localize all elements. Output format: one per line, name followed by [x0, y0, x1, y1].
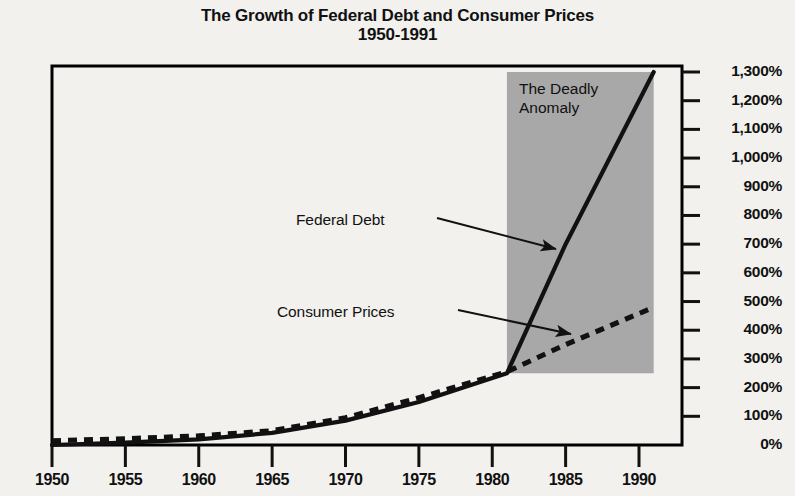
- x-tick-label: 1990: [609, 471, 669, 489]
- x-tick-label: 1950: [22, 471, 82, 489]
- shaded-region-label-line-1: The Deadly: [519, 80, 598, 97]
- x-tick-label: 1955: [95, 471, 155, 489]
- x-tick-label: 1975: [389, 471, 449, 489]
- shaded-region-label: The Deadly Anomaly: [519, 79, 598, 117]
- x-tick-label: 1965: [242, 471, 302, 489]
- y-tick-label: 1,100%: [706, 119, 782, 137]
- consumer-prices-label: Consumer Prices: [277, 303, 394, 321]
- x-axis-ticks: [52, 445, 639, 467]
- y-tick-label: 800%: [706, 205, 782, 223]
- x-tick-label: 1970: [316, 471, 376, 489]
- y-tick-label: 300%: [706, 349, 782, 367]
- y-tick-label: 600%: [706, 263, 782, 281]
- x-tick-label: 1980: [462, 471, 522, 489]
- y-tick-label: 900%: [706, 177, 782, 195]
- y-axis-ticks: [682, 72, 700, 416]
- chart-page: The Growth of Federal Debt and Consumer …: [0, 0, 795, 496]
- y-tick-label: 1,200%: [706, 91, 782, 109]
- y-tick-label: 1,000%: [706, 148, 782, 166]
- y-tick-label: 500%: [706, 292, 782, 310]
- chart-canvas: The Deadly Anomaly Federal Debt Consumer…: [0, 0, 795, 496]
- y-tick-label: 400%: [706, 320, 782, 338]
- chart-svg: [0, 0, 795, 496]
- y-tick-label: 1,300%: [706, 62, 782, 80]
- shaded-region-label-line-2: Anomaly: [519, 99, 579, 116]
- y-tick-label: 100%: [706, 406, 782, 424]
- y-tick-label: 700%: [706, 234, 782, 252]
- y-tick-label: 0%: [706, 435, 782, 453]
- x-tick-label: 1960: [169, 471, 229, 489]
- federal-debt-label: Federal Debt: [296, 211, 384, 229]
- x-tick-label: 1985: [536, 471, 596, 489]
- y-tick-label: 200%: [706, 378, 782, 396]
